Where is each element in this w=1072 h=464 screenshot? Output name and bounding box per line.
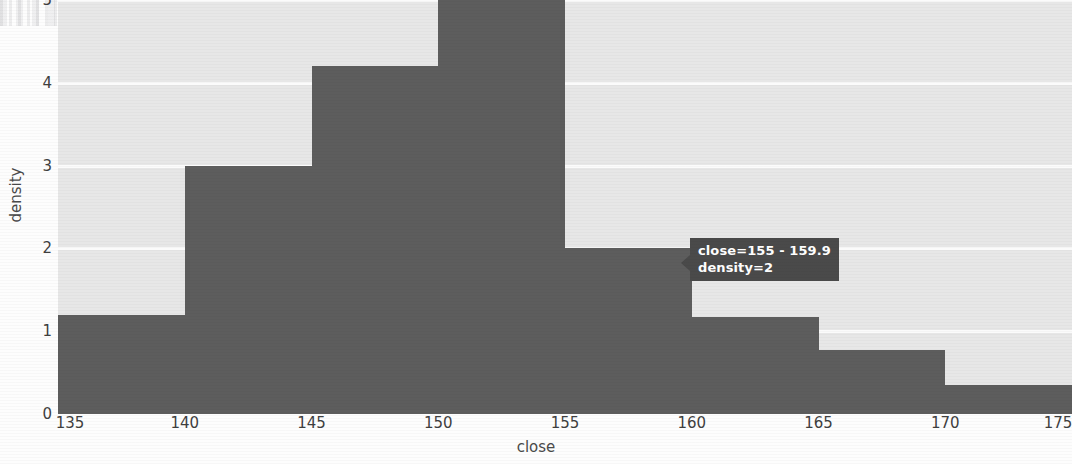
histogram-bar[interactable] [565,248,692,414]
histogram-bar[interactable] [692,317,819,414]
histogram-bar[interactable] [185,166,312,414]
chart-tooltip: close=155 - 159.9 density=2 [690,238,839,281]
histogram-figure: 012345 density 1351401451501551601651701… [0,0,1072,464]
y-tick-label: 3 [42,158,52,173]
histogram-bar[interactable] [945,385,1072,414]
x-tick-label: 145 [297,416,326,431]
tooltip-density-line: density=2 [698,259,831,276]
x-tick-label: 135 [56,416,85,431]
histogram-bar[interactable] [58,315,185,414]
x-axis-ticks: 135140145150155160165170175 [58,414,1072,438]
y-tick-label: 0 [42,407,52,422]
x-tick-label: 170 [931,416,960,431]
histogram-bar[interactable] [438,0,565,414]
histogram-bars [58,0,1072,414]
histogram-bar[interactable] [819,350,946,414]
x-tick-label: 150 [424,416,453,431]
x-tick-label: 165 [804,416,833,431]
y-tick-label: 2 [42,241,52,256]
x-tick-label: 160 [677,416,706,431]
y-axis-title: density [7,155,25,235]
plot-area [58,0,1072,414]
y-tick-label: 1 [42,324,52,339]
y-tick-label: 4 [42,75,52,90]
x-tick-label: 140 [170,416,199,431]
tooltip-arrow-icon [681,255,690,271]
x-tick-label: 155 [551,416,580,431]
histogram-bar[interactable] [312,66,439,414]
y-tick-label: 5 [42,0,52,8]
x-tick-label: 175 [1044,416,1072,431]
x-axis-title: close [0,438,1072,456]
tooltip-close-line: close=155 - 159.9 [698,242,831,259]
